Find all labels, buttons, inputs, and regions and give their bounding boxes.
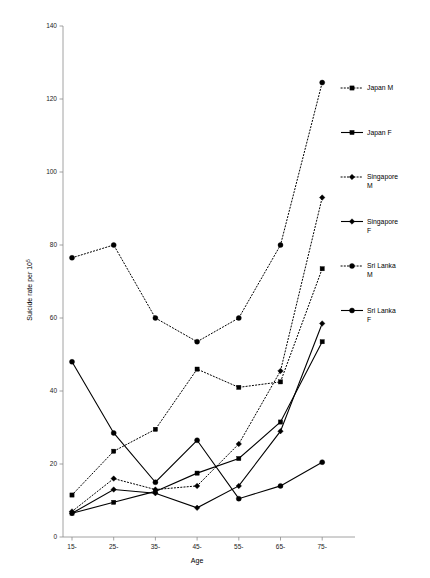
data-point-marker (111, 242, 116, 247)
data-point-marker (320, 267, 324, 271)
legend-sample-marker (350, 130, 354, 134)
legend-sample-marker (349, 308, 354, 313)
data-point-marker (237, 385, 241, 389)
data-point-marker (194, 505, 200, 511)
x-tick-label: 25- (109, 543, 118, 550)
data-point-marker (195, 438, 200, 443)
data-point-marker (111, 430, 116, 435)
legend-label: Sri LankaM (367, 262, 396, 278)
data-series (69, 80, 325, 516)
y-tick-label: 120 (46, 95, 57, 102)
data-point-marker (236, 496, 241, 501)
data-point-marker (70, 493, 74, 497)
legend-sample-marker (349, 219, 355, 225)
data-point-marker (278, 242, 283, 247)
data-point-marker (112, 449, 116, 453)
chart-legend: Japan MJapan FSingaporeMSingaporeFSri La… (341, 84, 398, 323)
data-point-marker (236, 315, 241, 320)
y-tick-label: 140 (46, 22, 57, 29)
data-point-marker (237, 456, 241, 460)
series-line (72, 269, 322, 495)
legend-label: Sri LankaF (367, 307, 396, 323)
data-point-marker (153, 480, 158, 485)
legend-item-sri-lanka-f[interactable]: Sri LankaF (341, 307, 396, 323)
legend-item-sri-lanka-m[interactable]: Sri LankaM (341, 262, 396, 278)
data-point-marker (319, 195, 325, 201)
x-tick-label: 35- (151, 543, 160, 550)
x-tick-label: 65- (276, 543, 285, 550)
data-point-marker (236, 441, 242, 447)
x-axis-title: Age (191, 557, 204, 565)
y-tick-label: 80 (50, 241, 58, 248)
series-singapore-m (69, 195, 325, 514)
legend-sample-marker (349, 174, 355, 180)
x-tick-label: 45- (192, 543, 201, 550)
x-tick-label: 15- (67, 543, 76, 550)
legend-item-singapore-m[interactable]: SingaporeM (341, 173, 398, 189)
y-tick-label: 20 (50, 460, 58, 467)
data-point-marker (111, 476, 117, 482)
series-line (72, 362, 322, 499)
data-point-marker (112, 500, 116, 504)
y-tick-label: 60 (50, 314, 58, 321)
legend-label: SingaporeM (367, 173, 398, 189)
data-point-marker (320, 340, 324, 344)
x-tick-label: 75- (317, 543, 326, 550)
chart-figure: 02040608010012014015-25-35-45-55-65-75-A… (0, 0, 430, 578)
legend-sample-marker (349, 263, 354, 268)
legend-label: Japan F (367, 129, 392, 137)
series-japan-m (70, 267, 324, 498)
data-point-marker (278, 420, 282, 424)
data-point-marker (69, 359, 74, 364)
data-point-marker (320, 80, 325, 85)
line-chart-svg: 02040608010012014015-25-35-45-55-65-75-A… (0, 0, 430, 578)
y-axis-title: Suicide rate per 105 (25, 259, 34, 321)
data-point-marker (278, 368, 284, 374)
y-tick-label: 40 (50, 387, 58, 394)
data-point-marker (195, 471, 199, 475)
x-tick-label: 55- (234, 543, 243, 550)
series-sri-lanka-f (69, 359, 324, 501)
series-line (72, 83, 322, 342)
data-point-marker (195, 367, 199, 371)
data-point-marker (320, 460, 325, 465)
legend-item-japan-f[interactable]: Japan F (341, 129, 392, 137)
data-point-marker (319, 321, 325, 327)
y-tick-label: 100 (46, 168, 57, 175)
y-tick-label: 0 (53, 533, 57, 540)
data-point-marker (153, 315, 158, 320)
legend-item-japan-m[interactable]: Japan M (341, 84, 393, 92)
legend-label: Japan M (367, 84, 393, 92)
data-point-marker (111, 487, 117, 493)
axes (60, 26, 356, 541)
data-point-marker (69, 255, 74, 260)
data-point-marker (153, 427, 157, 431)
data-point-marker (195, 339, 200, 344)
legend-sample-marker (350, 86, 354, 90)
data-point-marker (278, 380, 282, 384)
series-sri-lanka-m (69, 80, 324, 344)
legend-label: SingaporeF (367, 218, 398, 234)
legend-item-singapore-f[interactable]: SingaporeF (341, 218, 398, 234)
data-point-marker (278, 483, 283, 488)
series-line (72, 198, 322, 512)
